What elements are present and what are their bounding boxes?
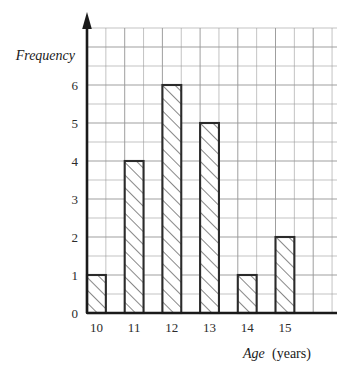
bar	[238, 275, 257, 313]
y-tick-label: 2	[72, 230, 79, 245]
x-tick-label: 11	[128, 320, 141, 335]
x-axis-title-unit: (years)	[272, 346, 311, 362]
histogram-chart: 0123456 101112131415 Frequency Age (year…	[0, 0, 352, 369]
x-tick-label: 10	[90, 320, 103, 335]
y-axis-title: Frequency	[15, 48, 76, 63]
bar	[162, 85, 181, 313]
y-tick-label: 3	[72, 192, 79, 207]
x-tick-label: 12	[165, 320, 178, 335]
y-tick-labels: 0123456	[72, 78, 79, 321]
y-tick-label: 0	[72, 306, 79, 321]
y-tick-label: 4	[72, 154, 79, 169]
bar	[87, 275, 106, 313]
bar	[200, 123, 219, 313]
x-axis-title-italic: Age	[242, 346, 265, 361]
x-tick-label: 14	[241, 320, 255, 335]
bar	[276, 237, 295, 313]
x-tick-labels: 101112131415	[90, 320, 291, 335]
x-tick-label: 13	[203, 320, 216, 335]
x-tick-label: 15	[278, 320, 291, 335]
chart-canvas: 0123456 101112131415 Frequency Age (year…	[0, 0, 352, 369]
y-tick-label: 1	[72, 268, 79, 283]
y-tick-label: 6	[72, 78, 79, 93]
y-tick-label: 5	[72, 116, 79, 131]
bar	[125, 161, 144, 313]
up-arrow-icon	[82, 12, 92, 29]
